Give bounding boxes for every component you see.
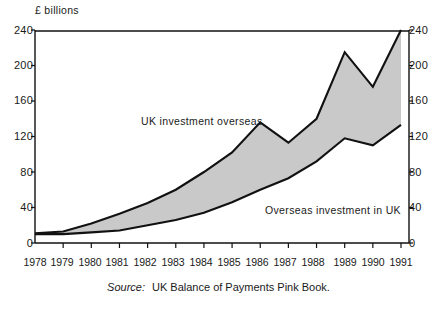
chart-figure: £ billions 240 200 160 120 80 40 0 240 2… — [0, 0, 437, 316]
source-text: UK Balance of Payments Pink Book. — [152, 281, 330, 293]
source-label: Source: — [107, 281, 145, 293]
plot-area — [0, 0, 437, 316]
series-label-overseas-investment-in-uk: Overseas investment in UK — [265, 204, 401, 216]
series-label-uk-investment-overseas: UK investment overseas — [141, 115, 263, 127]
source-caption: Source:UK Balance of Payments Pink Book. — [0, 281, 437, 293]
